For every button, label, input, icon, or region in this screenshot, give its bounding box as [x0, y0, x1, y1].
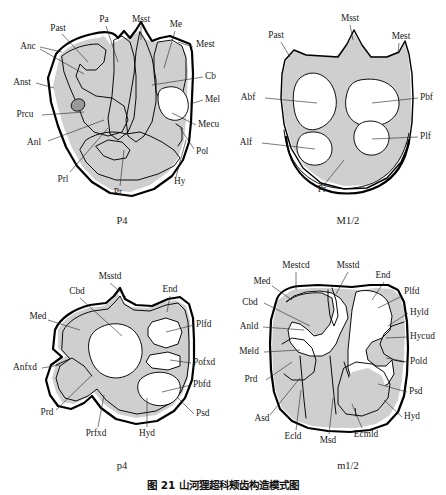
structure-label-Prl: Prl	[58, 174, 69, 184]
structure-label-Hycud: Hycud	[410, 331, 435, 341]
structure-label-Med: Med	[253, 276, 270, 286]
structure-label-Pofxd: Pofxd	[193, 357, 216, 367]
panel-label-M12: M1/2	[337, 215, 360, 226]
structure-label-Psd: Psd	[196, 408, 210, 418]
structure-label-Mest: Mest	[196, 39, 215, 49]
structure-label-Msst: Msst	[341, 13, 360, 23]
figure-caption: 图 21 山河狸超科颊齿构造模式图	[147, 479, 299, 491]
structure-label-Prcu: Prcu	[16, 109, 33, 119]
structure-label-Msd: Msd	[320, 435, 337, 445]
structure-label-Ecld: Ecld	[284, 431, 301, 441]
p4-Plfd-fossettid	[148, 318, 182, 348]
panel-label-P4: P4	[116, 215, 128, 226]
structure-label-Prd: Prd	[41, 407, 54, 417]
structure-label-Prfxd: Prfxd	[86, 428, 107, 438]
structure-label-Pol: Pol	[196, 146, 209, 156]
structure-label-Plf: Plf	[420, 131, 432, 141]
structure-label-Alf: Alf	[240, 137, 253, 147]
structure-label-Mecu: Mecu	[198, 119, 220, 129]
panel-label-m12: m1/2	[337, 460, 359, 471]
structure-label-Mestcd: Mestcd	[282, 260, 310, 270]
structure-label-End: End	[376, 270, 391, 280]
structure-label-Hy: Hy	[174, 176, 186, 186]
structure-label-Past: Past	[50, 23, 66, 33]
structure-label-Abf: Abf	[241, 92, 256, 102]
panel-label-p4: p4	[117, 460, 128, 471]
structure-label-Msstd: Msstd	[337, 260, 360, 270]
structure-label-Pbf: Pbf	[420, 92, 434, 102]
structure-label-Msstd: Msstd	[99, 271, 122, 281]
structure-label-Mel: Mel	[205, 94, 220, 104]
structure-label-Pa: Pa	[99, 14, 108, 24]
M12-Plf-fossette	[354, 121, 389, 155]
structure-label-Anld: Anld	[240, 321, 259, 331]
structure-label-Anc: Anc	[20, 41, 36, 51]
structure-label-Psd: Psd	[409, 386, 423, 396]
structure-label-Pr: Pr	[114, 187, 123, 197]
structure-label-Pold: Pold	[410, 356, 427, 366]
structure-label-Past: Past	[268, 30, 284, 40]
structure-label-Cbd: Cbd	[242, 297, 258, 307]
tooth-diagram-svg: P4 M1/2	[0, 0, 446, 495]
structure-label-Hyd: Hyd	[404, 411, 420, 421]
p4-Cbd-basin	[89, 324, 143, 378]
structure-label-Pr: Pr	[318, 184, 327, 194]
structure-label-Prd: Prd	[245, 374, 258, 384]
structure-label-Cb: Cb	[205, 71, 216, 81]
panel-M12: M1/2	[262, 25, 418, 226]
structure-label-Asd: Asd	[255, 413, 270, 423]
structure-label-Plfd: Plfd	[404, 286, 420, 296]
structure-label-Anl: Anl	[27, 137, 41, 147]
structure-label-Anst: Anst	[13, 77, 31, 87]
structure-label-Cbd: Cbd	[69, 286, 85, 296]
structure-label-Mest: Mest	[392, 31, 411, 41]
panel-p4: p4	[42, 283, 194, 471]
structure-label-Ecmld: Ecmld	[354, 429, 379, 439]
structure-label-Hyd: Hyd	[139, 428, 155, 438]
structure-label-Msst: Msst	[132, 14, 151, 24]
structure-label-Meld: Meld	[239, 346, 259, 356]
structure-label-Plfd: Plfd	[196, 319, 212, 329]
structure-label-Pbfd: Pbfd	[193, 379, 211, 389]
structure-label-Anfxd: Anfxd	[13, 362, 37, 372]
structure-label-End: End	[163, 284, 178, 294]
structure-label-Hyld: Hyld	[410, 307, 429, 317]
structure-label-Me: Me	[170, 19, 182, 29]
figure-container: P4 M1/2	[0, 0, 446, 495]
M12-Alf-fossette	[297, 132, 332, 165]
structure-label-Med: Med	[29, 311, 46, 321]
